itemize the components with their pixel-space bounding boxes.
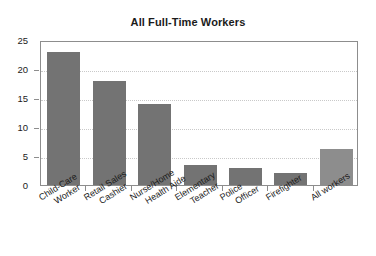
bars-group [41,42,357,185]
y-tick-label: 25 [17,36,28,46]
y-tick-mark [34,157,39,158]
y-tick-mark [34,70,39,71]
x-axis: Child-CareWorkerRetail SalesCashierNurse… [0,186,376,256]
y-tick-label: 20 [17,65,28,75]
plot-area [40,41,358,186]
y-tick-mark [34,128,39,129]
y-tick-mark [34,99,39,100]
y-axis: 0510152025 [0,41,34,186]
y-tick-label: 5 [23,152,28,162]
y-tick-label: 10 [17,123,28,133]
bar-chart: All Full-Time Workers 0510152025 Child-C… [0,0,376,256]
bar [47,52,80,185]
y-tick-label: 15 [17,94,28,104]
chart-title: All Full-Time Workers [0,16,376,28]
